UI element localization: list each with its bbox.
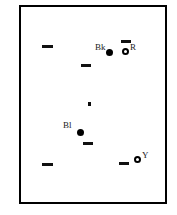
- point-label-r: R: [130, 43, 136, 52]
- dash-mark: [83, 142, 93, 145]
- data-point-bk: [106, 49, 113, 56]
- dash-mark: [119, 162, 129, 165]
- point-label-y: Y: [142, 151, 149, 160]
- dash-mark: [81, 64, 91, 67]
- point-label-bl: Bl: [63, 121, 72, 130]
- data-point-r: [122, 48, 129, 55]
- plot-frame: Bk R Bl Y: [19, 5, 167, 204]
- data-point-speck: [88, 102, 91, 106]
- dash-mark: [42, 45, 53, 48]
- point-label-bk: Bk: [95, 43, 106, 52]
- dash-mark: [42, 163, 53, 166]
- figure-canvas: Bk R Bl Y: [0, 0, 177, 215]
- data-point-y: [134, 156, 141, 163]
- data-point-bl: [77, 129, 84, 136]
